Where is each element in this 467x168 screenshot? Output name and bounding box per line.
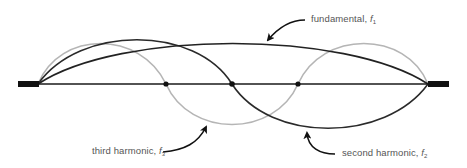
fundamental-label-text: fundamental, (311, 13, 370, 24)
third-harmonic-arrow-icon (163, 127, 206, 152)
fundamental-wave (38, 44, 428, 85)
node-one-third (163, 81, 168, 86)
second-harmonic-arrow-icon (307, 133, 335, 154)
second-harmonic-label: second harmonic, f2 (342, 147, 428, 159)
left-clamp (18, 81, 39, 87)
fundamental-arrow-icon (268, 20, 305, 40)
third-harmonic-label: third harmonic, f3 (92, 145, 165, 157)
third-harmonic-subscript: 3 (162, 151, 165, 157)
fundamental-subscript: 1 (373, 19, 376, 25)
right-clamp (428, 81, 449, 87)
second-harmonic-subscript: 2 (424, 153, 427, 159)
second-harmonic-label-text: second harmonic, (342, 147, 421, 158)
node-half (229, 81, 235, 87)
fundamental-label: fundamental, f1 (311, 13, 376, 25)
node-two-thirds (295, 81, 300, 86)
third-harmonic-label-text: third harmonic, (92, 145, 159, 156)
standing-wave-diagram (0, 0, 467, 168)
